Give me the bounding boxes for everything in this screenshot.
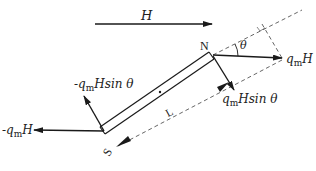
theta-arc: [235, 44, 238, 56]
north-pole-label: N: [200, 40, 209, 52]
bar-magnet: [100, 52, 214, 134]
north-force-label: qmH: [286, 53, 313, 65]
diagram-canvas: [0, 0, 316, 171]
field-h-label: H: [141, 9, 152, 22]
south-force-label: -qmH: [2, 124, 33, 136]
south-perp-force-arrow: [84, 96, 104, 131]
south-force-arrow: [34, 130, 104, 131]
north-perp-force-label: qmHsin θ: [222, 93, 277, 105]
north-force-arrow: [213, 55, 282, 58]
projection-dashed: [262, 24, 282, 58]
axis-extension-dashed: [213, 10, 302, 55]
center-dot: [159, 91, 161, 93]
theta-label: θ: [240, 40, 247, 51]
magnet-torque-diagram: H N θ qmH qmHsin θ -qmH -qmHsin θ L S: [0, 0, 316, 171]
dimension-arrow-s: [116, 136, 131, 147]
south-perp-force-label: -qmHsin θ: [74, 78, 134, 90]
